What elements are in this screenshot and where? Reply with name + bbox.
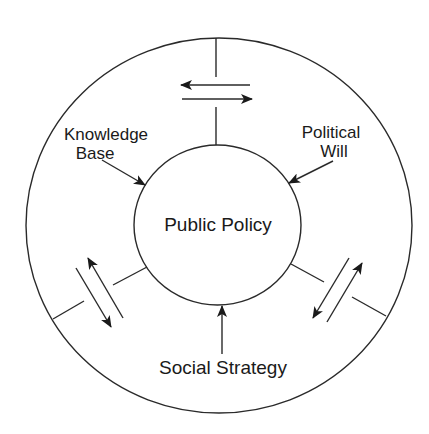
knowledge-label-line2: Base [76,144,115,163]
political-label-line2: Will [320,142,347,161]
social-strategy-label: Social Strategy [159,357,287,378]
left-divider [53,267,147,319]
political-arrow-icon [289,161,333,183]
political-label-line1: Political [302,123,361,142]
knowledge-label-line1: Knowledge [64,125,148,144]
public-policy-diagram: Public Policy Knowledge Base Political W… [0,0,429,434]
top-exchange-arrows-icon [181,85,252,99]
knowledge-arrow-icon [102,160,145,185]
right-divider [291,264,386,316]
center-label: Public Policy [164,214,272,235]
right-exchange-arrows-icon [313,258,362,322]
left-exchange-arrows-icon [76,258,123,327]
